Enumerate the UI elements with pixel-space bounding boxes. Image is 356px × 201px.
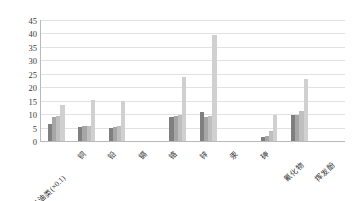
bar — [182, 77, 186, 141]
x-axis-tick-label-text: 铬 — [168, 150, 179, 161]
y-axis-tick-label: 30 — [29, 57, 38, 66]
x-axis-tick-label-text: 挥发酚 — [314, 161, 336, 183]
x-axis-label-cell: 挥发酚 — [315, 143, 346, 201]
y-axis-tick-label: 25 — [29, 70, 38, 79]
bar — [91, 100, 95, 141]
x-axis-tick-label-text: 铜 — [76, 150, 87, 161]
bar — [304, 79, 308, 141]
x-axis-label-cell: 铜 — [71, 143, 102, 201]
x-axis-labels: 石油类(×0.1)铜铅镉铬锌汞砷氰化物挥发酚 — [40, 143, 345, 201]
plot-area: 051015202530354045 — [40, 20, 345, 142]
x-axis-tick-label: 砷 — [265, 144, 276, 155]
bar-group — [284, 20, 314, 141]
bar-group — [132, 20, 162, 141]
bar — [212, 35, 216, 141]
x-axis-tick-label-text: 铅 — [107, 150, 118, 161]
x-axis-tick-label-text: 锌 — [198, 150, 209, 161]
bar-group — [102, 20, 132, 141]
x-axis-tick-label-text: 氰化物 — [283, 161, 305, 183]
x-axis-label-cell: 铅 — [101, 143, 132, 201]
x-axis-tick-label: 铜 — [82, 144, 93, 155]
bar — [121, 101, 125, 141]
bar-group — [71, 20, 101, 141]
x-axis-tick-label-text: 镉 — [137, 150, 148, 161]
bar-group — [163, 20, 193, 141]
x-axis-tick-label-text: 石油类(×0.1) — [32, 174, 68, 201]
bar-chart: 051015202530354045 石油类(×0.1)铜铅镉铬锌汞砷氰化物挥发… — [0, 0, 356, 201]
y-axis-tick-label: 40 — [29, 30, 38, 39]
y-axis-tick-label: 45 — [29, 17, 38, 26]
x-axis-tick-label-text: 汞 — [229, 150, 240, 161]
x-axis-label-cell: 石油类(×0.1) — [40, 143, 71, 201]
x-axis-tick-label-text: 砷 — [259, 150, 270, 161]
x-axis-label-cell: 氰化物 — [284, 143, 315, 201]
bar-group — [254, 20, 284, 141]
x-axis-label-cell: 镉 — [132, 143, 163, 201]
y-axis-tick-label: 0 — [33, 138, 37, 147]
y-axis-tick-label: 20 — [29, 84, 38, 93]
bar-groups — [41, 20, 345, 141]
x-axis-label-cell: 砷 — [254, 143, 285, 201]
bar-group — [315, 20, 345, 141]
x-axis-tick-label: 铬 — [174, 144, 185, 155]
bar-group — [41, 20, 71, 141]
x-axis-tick-label: 汞 — [235, 144, 246, 155]
y-axis-tick-label: 5 — [33, 124, 37, 133]
x-axis-tick-label: 铅 — [113, 144, 124, 155]
x-axis-tick-label: 挥发酚 — [331, 144, 353, 166]
y-axis-tick-label: 15 — [29, 97, 38, 106]
y-axis-tick-label: 10 — [29, 111, 38, 120]
x-axis-tick-label: 镉 — [143, 144, 154, 155]
bar-group — [193, 20, 223, 141]
bar-group — [223, 20, 253, 141]
x-axis-tick-label: 锌 — [204, 144, 215, 155]
bar — [273, 115, 277, 141]
bar — [60, 105, 64, 141]
x-axis-label-cell: 锌 — [193, 143, 224, 201]
x-axis-label-cell: 汞 — [223, 143, 254, 201]
y-axis-tick-label: 35 — [29, 43, 38, 52]
x-axis-label-cell: 铬 — [162, 143, 193, 201]
gridline-0: 0 — [41, 141, 345, 142]
